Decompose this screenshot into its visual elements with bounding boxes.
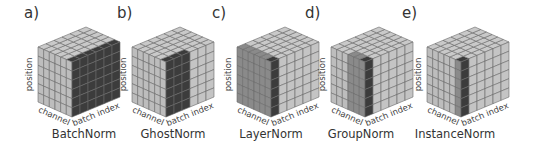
axis-label: position bbox=[413, 58, 423, 92]
cube-diagram: positionchannelbatch index bbox=[0, 0, 546, 148]
